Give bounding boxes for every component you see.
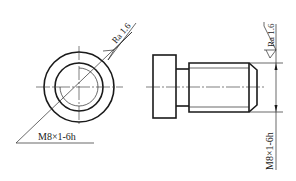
technical-drawing: M8×1-6h Ra 1.6 M8×1-6h Ra — [0, 0, 296, 181]
roughness-symbol-left: Ra 1.6 — [103, 20, 136, 60]
thread-label-left: M8×1-6h — [38, 131, 76, 142]
arrow-top — [275, 63, 278, 70]
roughness-label-left: Ra 1.6 — [110, 20, 133, 45]
head — [153, 55, 176, 118]
roughness-symbol-right: Ra 1.6 — [264, 22, 276, 58]
thread-label-right: M8×1-6h — [264, 132, 275, 170]
right-side-view: M8×1-6h Ra 1.6 — [146, 22, 283, 170]
arrow-bottom — [275, 105, 278, 112]
roughness-label-right: Ra 1.6 — [266, 23, 276, 47]
threaded-shank — [189, 63, 257, 112]
left-end-view: M8×1-6h Ra 1.6 — [16, 20, 136, 143]
